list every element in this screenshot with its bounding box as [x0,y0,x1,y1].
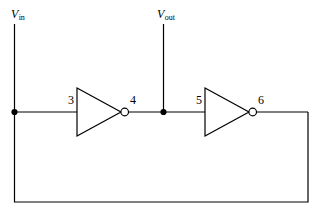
inverter-2-body [205,88,249,136]
label-vin: Vin [11,8,25,20]
junction-dot-vin [11,109,17,115]
wire-feedback-loop [15,112,309,202]
inverter-2-bubble [249,108,257,116]
inverter-1-body [77,88,121,136]
label-vout: Vout [157,8,175,20]
junction-dot-vout [160,109,166,115]
node-label-4: 4 [130,94,136,106]
label-vout-symbol: V [157,7,164,21]
node-label-3: 3 [68,94,74,106]
circuit-diagram: Vin Vout 3 4 5 6 [0,0,321,216]
inverter-1-bubble [121,108,129,116]
node-label-6: 6 [258,94,264,106]
label-vin-symbol: V [11,7,18,21]
label-vout-subscript: out [165,13,175,22]
schematic-canvas [0,0,321,216]
label-vin-subscript: in [19,13,25,22]
node-label-5: 5 [196,94,202,106]
